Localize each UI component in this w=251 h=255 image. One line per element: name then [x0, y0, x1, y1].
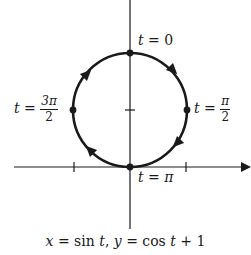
direction-arrow-icon: [166, 63, 181, 78]
diagram-caption: x = sin t, y = cos t + 1: [0, 233, 251, 249]
label-t0: t = 0: [138, 33, 173, 47]
fraction-denominator: 2: [220, 110, 230, 124]
label-t-pi: t = π: [138, 170, 173, 184]
point-t-pi: [127, 164, 134, 171]
caption-eq1: = sin: [53, 233, 99, 249]
point-t0: [127, 50, 134, 57]
label-t-3pi-half-eq: =: [20, 100, 41, 116]
fraction-numerator: 3π: [40, 95, 58, 110]
point-t-pi-half: [184, 107, 191, 114]
caption-tail: + 1: [176, 233, 206, 249]
fraction-3pi-over-2: 3π2: [40, 95, 58, 123]
fraction-pi-over-2: π2: [220, 95, 230, 123]
label-t-3pi-half: t = 3π2: [14, 95, 58, 123]
label-t-pi-eq: =: [144, 169, 165, 185]
x-axis-arrow-icon: [241, 162, 251, 172]
label-t0-eq: =: [144, 32, 165, 48]
fraction-denominator: 2: [40, 110, 58, 124]
caption-eq2: = cos: [122, 233, 171, 249]
fraction-numerator: π: [220, 95, 230, 110]
caption-sep: ,: [105, 233, 114, 249]
label-t-pi-half: t = π2: [194, 95, 230, 123]
label-t-pi-value: π: [164, 169, 173, 185]
label-t0-value: 0: [164, 32, 173, 48]
point-t-3pi-half: [70, 107, 77, 114]
label-t-pi-half-eq: =: [200, 100, 221, 116]
parametric-circle-diagram: [0, 0, 251, 255]
caption-y: y: [114, 233, 122, 249]
